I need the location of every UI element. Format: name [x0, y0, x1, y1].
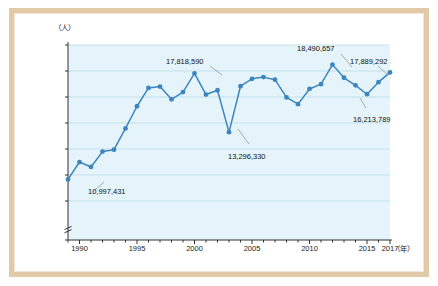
x-tick-label-2015: 2015: [359, 244, 376, 253]
y-axis-tick-labels: 08,000,00010,000,00012,000,00014,000,000…: [0, 0, 68, 286]
annotation-2003: 13,296,330: [228, 152, 266, 161]
annotation-2000: 17,818,590: [166, 57, 204, 66]
chart-figure: （人） 08,000,00010,000,00012,000,00014,000…: [0, 0, 438, 286]
x-tick-label-1995: 1995: [129, 244, 146, 253]
x-tick-label-1990: 1990: [71, 244, 88, 253]
annotation-2012: 18,490,657: [297, 44, 335, 53]
annotation-1990: 10,997,431: [88, 187, 126, 196]
x-tick-label-2005: 2005: [244, 244, 261, 253]
x-axis-unit-label: （年）: [393, 243, 414, 254]
annotation-2014: 16,213,789: [353, 115, 391, 124]
line-chart: （人） 08,000,00010,000,00012,000,00014,000…: [0, 0, 438, 286]
x-tick-label-2010: 2010: [301, 244, 318, 253]
annotation-2017: 17,889,292: [350, 57, 388, 66]
x-tick-label-2000: 2000: [186, 244, 203, 253]
